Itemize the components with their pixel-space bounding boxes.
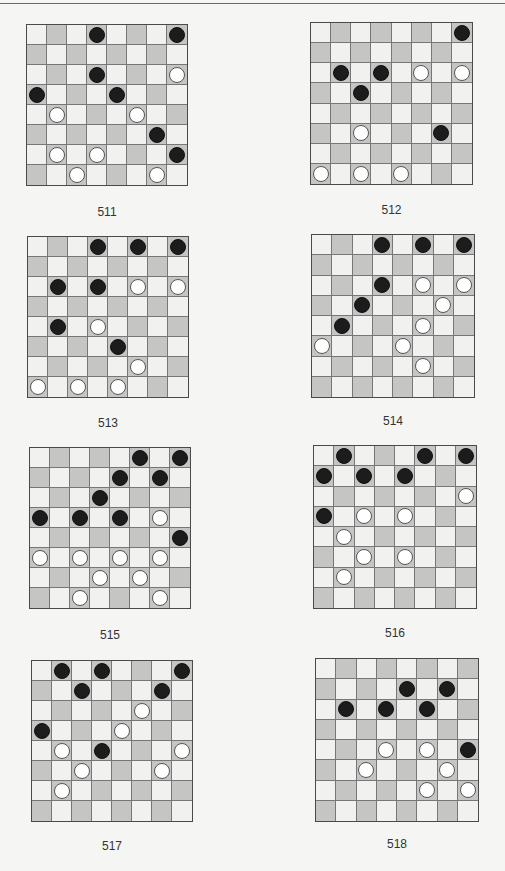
board-square (27, 65, 47, 85)
board-square (30, 448, 50, 468)
board-square (311, 104, 331, 124)
black-checker-piece (112, 510, 128, 526)
board-square (355, 507, 375, 527)
board-square (150, 508, 170, 528)
board-square (393, 276, 413, 296)
board-square (52, 681, 72, 701)
board-square (332, 316, 352, 336)
board-square (357, 700, 377, 720)
board-square (434, 377, 454, 397)
board-square (377, 700, 397, 720)
board-square (371, 43, 391, 63)
board-square (355, 466, 375, 486)
board-square (47, 165, 67, 185)
board-square (357, 679, 377, 699)
board-square (150, 548, 170, 568)
board-square (438, 760, 458, 780)
black-checker-piece (72, 510, 88, 526)
black-checker-piece (29, 87, 45, 103)
board-square (110, 488, 130, 508)
board-square (353, 357, 373, 377)
board-square (167, 25, 187, 45)
black-checker-piece (316, 468, 332, 484)
board-square (314, 527, 334, 547)
board-square (432, 144, 452, 164)
board-square (454, 377, 474, 397)
white-checker-piece (397, 508, 413, 524)
board-square (68, 277, 88, 297)
board-square (432, 124, 452, 144)
board-square (456, 487, 476, 507)
white-checker-piece (92, 570, 108, 586)
board-square (150, 468, 170, 488)
board-square (128, 277, 148, 297)
board-square (50, 508, 70, 528)
board-square (90, 448, 110, 468)
checkers-board (310, 22, 473, 185)
board-square (312, 357, 332, 377)
board-square (311, 43, 331, 63)
board-square (108, 297, 128, 317)
board-square (130, 588, 150, 608)
board-square (456, 507, 476, 527)
board-square (331, 144, 351, 164)
board-square (353, 377, 373, 397)
board-square (132, 761, 152, 781)
board-square (127, 65, 147, 85)
board-square (375, 588, 395, 608)
board-square (28, 277, 48, 297)
board-square (417, 740, 437, 760)
black-checker-piece (169, 27, 185, 43)
board-square (172, 781, 192, 801)
board-square (395, 507, 415, 527)
board-square (375, 487, 395, 507)
board-square (452, 124, 472, 144)
board-square (438, 781, 458, 801)
white-checker-piece (456, 277, 472, 293)
board-square (454, 316, 474, 336)
board-square (436, 527, 456, 547)
board-square (312, 377, 332, 397)
white-checker-piece (154, 763, 170, 779)
white-checker-piece (336, 569, 352, 585)
white-checker-piece (49, 107, 65, 123)
board-square (68, 257, 88, 277)
board-square (436, 466, 456, 486)
board-square (68, 317, 88, 337)
board-square (172, 801, 192, 821)
board-square (332, 377, 352, 397)
board-square (167, 125, 187, 145)
board-square (316, 801, 336, 821)
board-square (417, 781, 437, 801)
board-square (147, 165, 167, 185)
board-square (434, 336, 454, 356)
board-square (311, 83, 331, 103)
board-square (375, 527, 395, 547)
board-square (107, 45, 127, 65)
board-square (336, 679, 356, 699)
board-square (168, 257, 188, 277)
board-square (316, 659, 336, 679)
board-square (316, 740, 336, 760)
black-checker-piece (399, 681, 415, 697)
board-square (52, 781, 72, 801)
board-square (393, 336, 413, 356)
board-square (67, 45, 87, 65)
board-square (108, 317, 128, 337)
checkers-board (26, 24, 188, 186)
board-square (373, 296, 393, 316)
white-checker-piece (169, 67, 185, 83)
white-checker-piece (419, 742, 435, 758)
board-square (28, 337, 48, 357)
board-square (353, 316, 373, 336)
board-square (371, 144, 391, 164)
board-square (70, 588, 90, 608)
board-square (28, 297, 48, 317)
board-square (334, 588, 354, 608)
board-square (150, 488, 170, 508)
board-square (371, 124, 391, 144)
board-square (67, 85, 87, 105)
board-square (454, 276, 474, 296)
board-square (351, 104, 371, 124)
white-checker-piece (353, 166, 369, 182)
